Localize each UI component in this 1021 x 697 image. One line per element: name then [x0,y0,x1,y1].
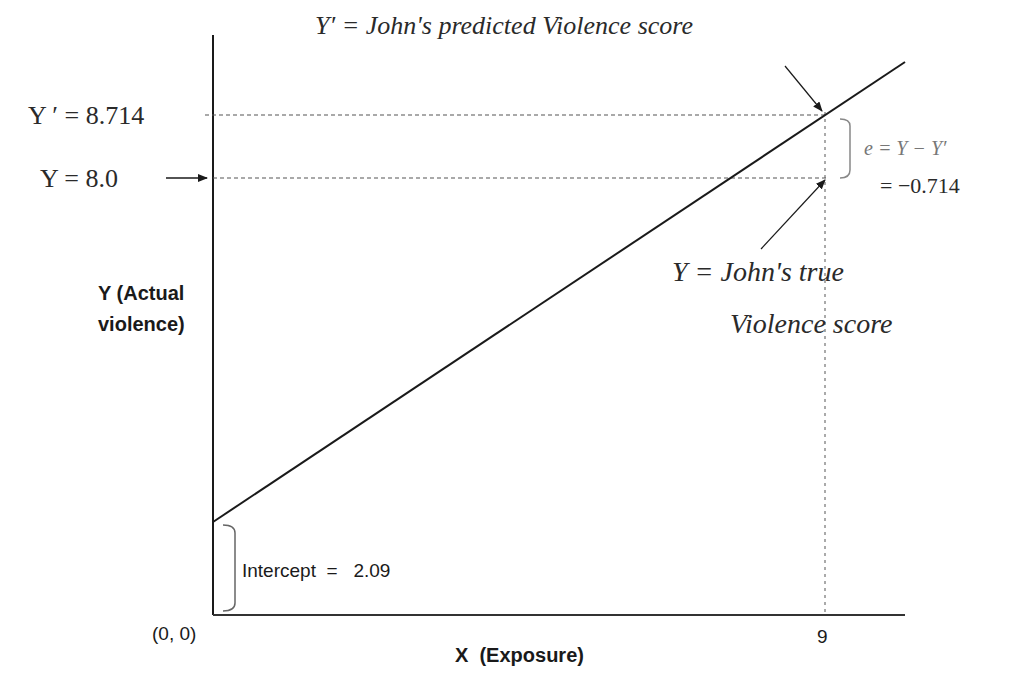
y-axis-label-line1: Y (Actual [98,282,184,304]
regression-line [213,62,905,522]
y-actual-pointer-arrow [761,180,825,249]
error-value: = −0.714 [880,173,960,198]
y-axis-label-line2: violence) [98,313,185,335]
x-tick-label-9: 9 [817,626,828,647]
y-actual-description-line1: Y = John's true [672,256,844,287]
regression-diagram: Y ′ = 8.714 Y = 8.0 Y (Actual violence) … [0,0,1021,697]
x-axis-label: X (Exposure) [455,644,584,666]
intercept-label: Intercept = 2.09 [242,560,390,581]
y-prime-pointer-arrow [785,66,822,111]
diagram-canvas: Y ′ = 8.714 Y = 8.0 Y (Actual violence) … [0,0,1021,697]
error-bracket [840,119,850,178]
y-actual-value-label: Y = 8.0 [40,164,118,193]
y-prime-description: Y′ = John's predicted Violence score [315,11,693,40]
y-actual-description-line2: Violence score [730,308,892,339]
intercept-bracket [223,525,235,611]
error-formula: e = Y − Y′ [864,137,947,159]
y-prime-value-label: Y ′ = 8.714 [28,101,144,130]
origin-label: (0, 0) [152,623,196,644]
